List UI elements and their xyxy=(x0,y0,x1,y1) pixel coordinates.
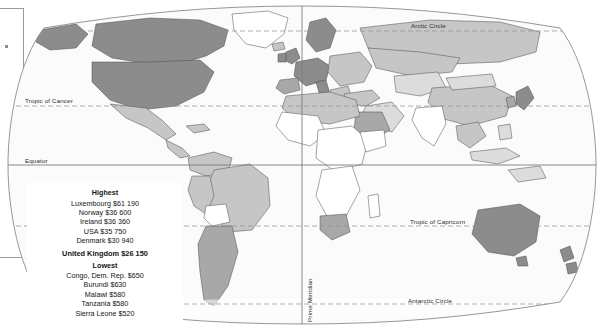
tropic-of-cancer-label: Tropic of Cancer xyxy=(25,97,73,104)
gdp-legend-panel: Highest Luxembourg $61 190 Norway $36 60… xyxy=(27,183,183,323)
legend-item: Norway $36 600 xyxy=(31,208,179,217)
legend-highest-heading: Highest xyxy=(31,188,179,197)
prime-meridian-label: Prime Meridian xyxy=(306,278,313,322)
legend-item: Luxembourg $61 190 xyxy=(31,199,179,208)
arctic-circle-label: Arctic Circle xyxy=(411,22,446,29)
legend-item: Burundi $630 xyxy=(31,280,179,289)
legend-lowest-heading: Lowest xyxy=(31,261,179,270)
legend-item: Malawi $580 xyxy=(31,290,179,299)
legend-item: Tanzania $580 xyxy=(31,299,179,308)
legend-item: Denmark $30 940 xyxy=(31,236,179,245)
map-figure: Arctic Circle Tropic of Cancer Equator T… xyxy=(0,0,605,330)
equator-label: Equator xyxy=(25,157,48,164)
legend-item: USA $35 750 xyxy=(31,227,179,236)
antarctic-circle-label: Antarctic Circle xyxy=(408,297,452,304)
tropic-of-capricorn-label: Tropic of Capricorn xyxy=(410,218,465,225)
legend-item: Sierra Leone $520 xyxy=(31,309,179,318)
legend-item: Congo, Dem. Rep. $650 xyxy=(31,271,179,280)
legend-item: Ireland $36 360 xyxy=(31,217,179,226)
legend-reference-entry: United Kingdom $26 150 xyxy=(31,248,179,260)
